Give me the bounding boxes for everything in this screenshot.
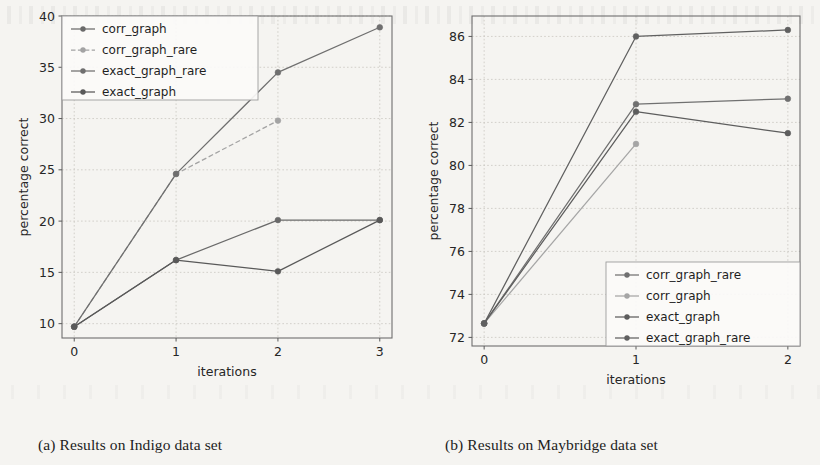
series-point-marker (481, 321, 487, 327)
figure-container: 101520253035400123iterationspercentage c… (0, 0, 820, 465)
series-point-marker (275, 268, 281, 274)
x-axis-tick-label: 0 (70, 344, 78, 359)
chart-legend: corr_graphcorr_graph_rareexact_graph_rar… (62, 16, 258, 100)
chart-panel-a: 101520253035400123iterationspercentage c… (0, 0, 410, 465)
y-axis-tick-label: 72 (449, 330, 465, 345)
series-point-marker (785, 96, 791, 102)
x-axis-tick-label: 2 (784, 352, 792, 367)
legend-label: corr_graph_rare (102, 43, 197, 57)
series-point-marker (785, 27, 791, 33)
series-point-marker (173, 171, 179, 177)
x-axis-tick-label: 0 (480, 352, 488, 367)
legend-label: exact_graph_rare (102, 64, 206, 78)
series-point-marker (275, 118, 281, 124)
series-line (74, 220, 380, 327)
x-axis-tick-label: 2 (274, 344, 282, 359)
y-axis-tick-label: 84 (449, 72, 465, 87)
legend-marker (624, 314, 629, 319)
legend-marker (80, 89, 85, 94)
y-axis-tick-label: 76 (449, 244, 465, 259)
legend-marker (624, 272, 629, 277)
y-axis-tick-label: 20 (39, 214, 55, 229)
y-axis-tick-label: 10 (39, 316, 55, 331)
x-axis-tick-label: 1 (172, 344, 180, 359)
y-axis-tick-label: 78 (449, 201, 465, 216)
x-axis-tick-label: 1 (632, 352, 640, 367)
y-axis-tick-label: 40 (39, 9, 55, 24)
x-axis-tick-label: 3 (376, 344, 384, 359)
series-point-marker (71, 324, 77, 330)
series-point-marker (275, 217, 281, 223)
y-axis-tick-label: 25 (39, 162, 55, 177)
series-point-marker (633, 109, 639, 115)
x-axis-label: iterations (606, 372, 665, 387)
x-axis-label: iterations (197, 364, 256, 379)
legend-marker (80, 26, 85, 31)
line-chart-maybridge: 7274767880828486012iterationspercentage … (410, 0, 820, 430)
series-point-marker (633, 101, 639, 107)
y-axis-tick-label: 35 (39, 60, 55, 75)
legend-label: exact_graph (646, 310, 720, 324)
chart-panel-b: 7274767880828486012iterationspercentage … (410, 0, 820, 465)
series-line (74, 121, 278, 327)
series-point-marker (785, 130, 791, 136)
y-axis-label: percentage correct (426, 121, 441, 240)
legend-marker (624, 293, 629, 298)
legend-label: corr_graph (102, 22, 167, 36)
legend-marker (624, 335, 629, 340)
series-point-marker (633, 34, 639, 40)
y-axis-tick-label: 15 (39, 265, 55, 280)
legend-marker (80, 68, 85, 73)
y-axis-tick-label: 80 (449, 158, 465, 173)
legend-label: corr_graph_rare (646, 268, 741, 282)
y-axis-tick-label: 82 (449, 115, 465, 130)
y-axis-tick-label: 86 (449, 29, 465, 44)
caption-panel-b: (b) Results on Maybridge data set (445, 436, 658, 454)
line-chart-indigo: 101520253035400123iterationspercentage c… (0, 0, 410, 430)
series-line (74, 220, 380, 327)
series-point-marker (377, 24, 383, 30)
series-point-marker (377, 217, 383, 223)
chart-legend: corr_graph_rarecorr_graphexact_graphexac… (606, 262, 800, 346)
y-axis-tick-label: 74 (449, 287, 465, 302)
legend-label: corr_graph (646, 289, 711, 303)
y-axis-tick-label: 30 (39, 111, 55, 126)
series-point-marker (275, 70, 281, 76)
series-point-marker (173, 257, 179, 263)
caption-panel-a: (a) Results on Indigo data set (38, 436, 222, 454)
y-axis-label: percentage correct (16, 117, 31, 236)
legend-label: exact_graph (102, 85, 176, 99)
legend-marker (80, 47, 85, 52)
series-point-marker (633, 141, 639, 147)
legend-label: exact_graph_rare (646, 331, 750, 345)
